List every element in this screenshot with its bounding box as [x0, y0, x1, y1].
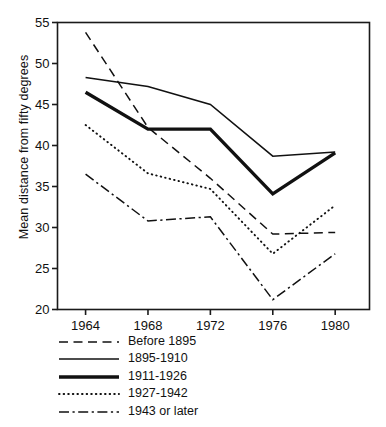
- legend-item-label: Before 1895: [128, 334, 196, 348]
- y-tick-label: 25: [35, 261, 49, 276]
- legend-key-icon: [58, 386, 120, 400]
- legend: Before 18951895-19101911-19261927-194219…: [58, 332, 358, 420]
- legend-key-icon: [58, 369, 120, 383]
- series-line-3: [86, 125, 336, 254]
- series-line-1: [86, 77, 336, 156]
- y-axis-label: Mean distance from fifty degrees: [17, 37, 31, 257]
- series-line-4: [86, 174, 336, 299]
- x-tick-label: 1964: [71, 318, 100, 331]
- y-tick-label: 45: [35, 97, 49, 112]
- data-series-group: [86, 32, 336, 299]
- legend-item[interactable]: Before 1895: [58, 332, 358, 350]
- x-axis-ticks: 19641968197219761980: [71, 310, 350, 331]
- y-tick-label: 50: [35, 56, 49, 71]
- legend-item-label: 1895-1910: [128, 351, 188, 365]
- x-tick-label: 1972: [196, 318, 225, 331]
- plot-area: 2025303540455055 19641968197219761980: [0, 0, 386, 330]
- legend-item-label: 1911-1926: [128, 369, 187, 383]
- x-tick-label: 1976: [258, 318, 287, 331]
- series-line-0: [86, 32, 336, 234]
- legend-item[interactable]: 1895-1910: [58, 350, 358, 368]
- y-tick-label: 40: [35, 138, 49, 153]
- legend-key-icon: [58, 351, 120, 365]
- y-tick-label: 30: [35, 220, 49, 235]
- y-tick-label: 55: [35, 15, 49, 30]
- x-tick-label: 1980: [321, 318, 350, 331]
- x-tick-label: 1968: [134, 318, 163, 331]
- legend-item-label: 1943 or later: [128, 404, 198, 418]
- y-tick-label: 20: [35, 302, 49, 317]
- legend-item[interactable]: 1943 or later: [58, 402, 358, 420]
- y-tick-label: 35: [35, 179, 49, 194]
- legend-item-label: 1927-1942: [128, 386, 188, 400]
- legend-key-icon: [58, 334, 120, 348]
- y-axis-ticks: 2025303540455055: [35, 15, 57, 317]
- chart-figure: Mean distance from fifty degrees 2025303…: [0, 0, 386, 427]
- legend-item[interactable]: 1927-1942: [58, 385, 358, 403]
- legend-key-icon: [58, 404, 120, 418]
- legend-item[interactable]: 1911-1926: [58, 367, 358, 385]
- axes-frame: [58, 23, 370, 310]
